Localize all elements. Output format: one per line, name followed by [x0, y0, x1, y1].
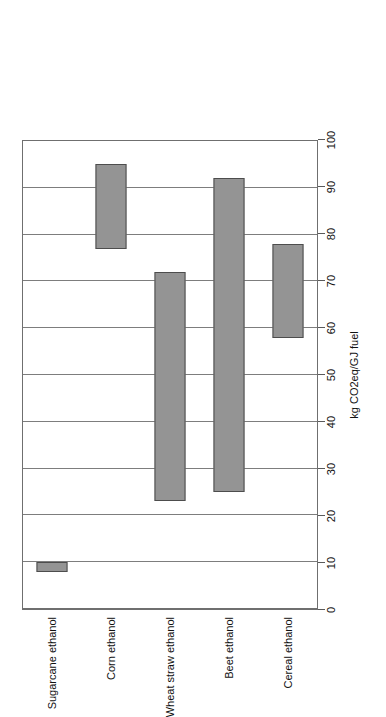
bar-slot [141, 141, 200, 609]
category-label-beet-ethanol: Beet ethanol [200, 617, 259, 679]
tick-40 [318, 421, 325, 422]
tick-label-90: 90 [325, 181, 337, 193]
bar-slot [258, 141, 317, 609]
category-label-sugarcane-ethanol: Sugarcane ethanol [22, 617, 81, 709]
value-axis-tick-labels: 0102030405060708090100 [325, 140, 345, 610]
bar-cereal-ethanol[interactable] [272, 244, 303, 338]
bar-slot [23, 141, 82, 609]
tick-label-60: 60 [325, 322, 337, 334]
category-label-corn-ethanol: Corn ethanol [81, 617, 140, 680]
bar-wheat-straw-ethanol[interactable] [154, 272, 185, 501]
tick-60 [318, 327, 325, 328]
bar-sugarcane-ethanol[interactable] [37, 562, 68, 571]
tick-0 [318, 609, 325, 610]
tick-50 [318, 374, 325, 375]
tick-70 [318, 280, 325, 281]
tick-label-40: 40 [325, 416, 337, 428]
tick-label-50: 50 [325, 369, 337, 381]
tick-90 [318, 186, 325, 187]
tick-label-100: 100 [325, 131, 337, 149]
value-axis-title: kg CO2eq/GJ fuel [348, 140, 361, 610]
category-axis-labels: Sugarcane ethanolCorn ethanolWheat straw… [22, 612, 318, 656]
tick-label-10: 10 [325, 557, 337, 569]
tick-80 [318, 233, 325, 234]
bar-slot [199, 141, 258, 609]
tick-label-0: 0 [325, 607, 337, 613]
category-label-cereal-ethanol: Cereal ethanol [259, 617, 318, 689]
tick-30 [318, 468, 325, 469]
tick-20 [318, 515, 325, 516]
tick-100 [318, 139, 325, 140]
tick-10 [318, 562, 325, 563]
bar-slot [82, 141, 141, 609]
bar-corn-ethanol[interactable] [96, 164, 127, 248]
tick-label-30: 30 [325, 463, 337, 475]
category-label-wheat-straw-ethanol: Wheat straw ethanol [140, 617, 199, 717]
tick-label-80: 80 [325, 228, 337, 240]
bar-beet-ethanol[interactable] [213, 178, 244, 492]
plot-area [22, 140, 318, 610]
tick-label-20: 20 [325, 510, 337, 522]
bar-series [23, 141, 317, 609]
tick-label-70: 70 [325, 275, 337, 287]
